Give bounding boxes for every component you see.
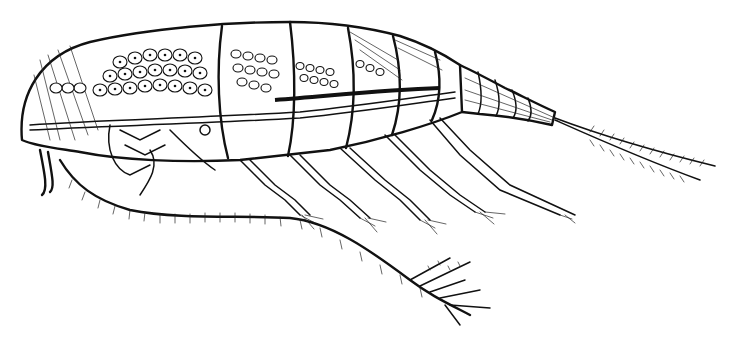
swimming-legs: [240, 118, 575, 234]
urosome: [460, 65, 555, 125]
copepod-drawing: [0, 0, 733, 342]
copepod-illustration: [0, 0, 733, 342]
caudal-setae: [555, 118, 715, 182]
egg-cells: [50, 49, 384, 96]
cephalothorax: [22, 22, 462, 161]
